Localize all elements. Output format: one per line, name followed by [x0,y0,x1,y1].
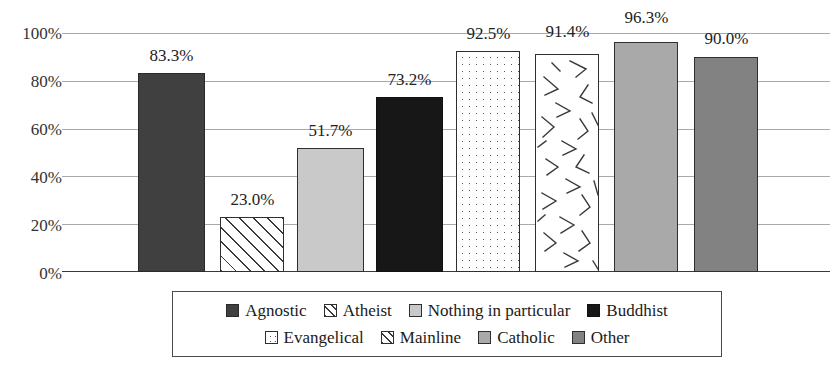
y-tick-label-80: 80% [0,73,62,90]
legend-label-mainline: Mainline [400,329,461,346]
legend-swatch-nothing-in-particular-icon [409,304,422,317]
bar-nothing-in-particular[interactable] [297,148,364,272]
zigzag-pattern-icon [536,55,599,272]
legend-swatch-evangelical-icon [265,331,278,344]
legend-label-other: Other [591,329,630,346]
y-tickmark-20 [62,224,70,225]
chart-title-remnant [0,0,839,8]
bar-label-agnostic: 83.3% [123,47,220,64]
plot-area: 83.3% 23.0% 51.7% 73.2% 92.5% [70,33,830,272]
legend-item-evangelical[interactable]: Evangelical [265,329,364,346]
legend-label-buddhist: Buddhist [606,302,667,319]
y-tick-label-20: 20% [0,217,62,234]
legend-item-atheist[interactable]: Atheist [324,302,392,319]
legend-item-mainline[interactable]: Mainline [381,329,461,346]
bar-label-other: 90.0% [678,30,775,47]
bar-chart: 100% 80% 60% 40% 20% 0% 83.3% 23.0% 51.7… [0,0,839,375]
y-tick-label-100: 100% [0,25,62,42]
legend-label-evangelical: Evangelical [284,329,364,346]
legend-swatch-mainline-icon [381,331,394,344]
legend-swatch-agnostic-icon [226,304,239,317]
y-tick-label-60: 60% [0,121,62,138]
y-tick-label-0: 0% [0,265,62,282]
legend-swatch-buddhist-icon [587,304,600,317]
legend-item-catholic[interactable]: Catholic [478,329,555,346]
legend-swatch-catholic-icon [478,331,491,344]
legend: Agnostic Atheist Nothing in particular B… [172,291,722,357]
legend-swatch-other-icon [572,331,585,344]
y-tick-label-40: 40% [0,169,62,186]
legend-item-other[interactable]: Other [572,329,630,346]
legend-item-nothing-in-particular[interactable]: Nothing in particular [409,302,571,319]
legend-row-2: Evangelical Mainline Catholic Other [173,324,721,351]
legend-label-atheist: Atheist [343,302,392,319]
bar-label-catholic: 96.3% [598,9,695,26]
legend-label-catholic: Catholic [497,329,555,346]
y-tickmark-60 [62,129,70,130]
legend-row-1: Agnostic Atheist Nothing in particular B… [173,297,721,324]
bar-catholic[interactable] [614,42,678,272]
legend-item-buddhist[interactable]: Buddhist [587,302,667,319]
legend-label-nothing-in-particular: Nothing in particular [428,302,571,319]
bar-label-nothing-in-particular: 51.7% [282,122,379,139]
legend-swatch-atheist-icon [324,304,337,317]
legend-item-agnostic[interactable]: Agnostic [226,302,306,319]
y-tickmark-40 [62,176,70,177]
bar-atheist[interactable] [220,217,284,272]
bar-buddhist[interactable] [376,97,443,272]
bar-agnostic[interactable] [138,73,205,272]
bar-mainline[interactable] [535,54,599,272]
y-tickmark-80 [62,81,70,82]
legend-label-agnostic: Agnostic [245,302,306,319]
bar-evangelical[interactable] [456,51,520,272]
bar-label-buddhist: 73.2% [361,71,458,88]
bar-other[interactable] [694,57,758,272]
bar-label-atheist: 23.0% [204,191,301,208]
y-tickmark-100 [62,33,70,34]
y-tickmark-0 [62,271,70,272]
